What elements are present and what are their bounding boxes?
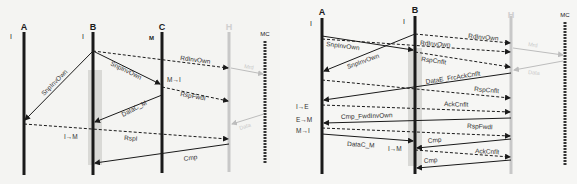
transition-a-e-to-m: E→M — [296, 116, 312, 123]
transition-b-i-to-m: I→M — [388, 145, 402, 152]
actor-h-label: H — [508, 10, 515, 20]
msg-ackcnflt-b-label: AckCnflt — [475, 147, 500, 155]
msg-snpinvown-a — [25, 51, 93, 120]
left-diagram-canvas: A B C H MC I I M RdInvOwn SnpInvOwn SnpI… — [0, 0, 280, 184]
actor-b-state: I — [403, 18, 405, 25]
msg-snpinvown-ba — [324, 34, 415, 71]
transition-c-m-to-i: M→I — [167, 76, 181, 83]
actor-c-state: M — [149, 35, 154, 41]
b-active-region — [88, 70, 102, 165]
msg-ackcnflt-a-label: AckCnflt — [444, 100, 469, 108]
transition-a-i-to-e: I→E — [296, 103, 309, 110]
msg-cmp-fwdinvown-label: Cmp_FwdInvOwn — [341, 111, 393, 121]
actor-mc-label: MC — [260, 31, 270, 37]
right-diagram-canvas: A B H MC I I RdInvOwn SnpInvOwn RdInvOwn… — [280, 0, 577, 184]
msg-cmp-label: Cmp — [183, 153, 198, 163]
msg-rspcnflt-a-label: RspCnflt — [474, 85, 500, 95]
actor-a-state: I — [310, 20, 312, 27]
msg-mrd-label: Mrd — [528, 41, 538, 48]
right-sequence-diagram: A B H MC I I RdInvOwn SnpInvOwn RdInvOwn… — [280, 0, 577, 184]
msg-rdinvown-a-label: RdInvOwn — [420, 39, 451, 48]
msg-mrd — [513, 48, 563, 55]
actor-b-label: B — [412, 5, 419, 15]
msg-snpinvown-ab-label: SnpInvOwn — [326, 40, 361, 52]
actor-h-label: H — [226, 22, 233, 32]
msg-rspcnflt-b-label: RspCnflt — [421, 55, 447, 66]
msg-rspfwdi-label: RspFwdI — [467, 122, 493, 131]
msg-data-label: Data — [238, 121, 252, 131]
actor-a-state: I — [10, 33, 12, 40]
msg-datac-m — [322, 134, 413, 141]
actor-b-state: I — [82, 33, 84, 40]
msg-data — [514, 61, 563, 70]
left-sequence-diagram: A B C H MC I I M RdInvOwn SnpInvOwn SnpI… — [0, 0, 280, 184]
transition-a-m-to-i: M→I — [296, 127, 310, 134]
msg-cmp-1-label: Cmp — [427, 136, 442, 145]
actor-b-label: B — [90, 22, 97, 32]
actor-a-label: A — [21, 22, 28, 32]
msg-datae-frcackcnflt-label: DataE_FrcAckCnflt — [425, 69, 481, 86]
msg-rspi-label: RspI — [124, 134, 138, 143]
transition-b-i-to-m: I→M — [64, 133, 78, 140]
msg-snpinvown-a-label: SnpInvOwn — [40, 68, 70, 98]
msg-data-label: Data — [528, 69, 541, 76]
msg-datac-m-label: DataC_M — [347, 140, 375, 149]
msg-snpinvown-c-label: SnpInvOwn — [109, 60, 143, 82]
actor-mc-label: MC — [560, 12, 570, 18]
msg-cmp-2-label: Cmp — [424, 156, 439, 165]
actor-c-label: C — [159, 22, 166, 32]
msg-rdinvown-label: RdInvOwn — [180, 54, 211, 65]
msg-mrd-label: Mrd — [244, 63, 254, 71]
actor-a-label: A — [319, 7, 326, 17]
msg-rdinvown-b-label: RdInvOwn — [468, 32, 499, 42]
msg-rspfwdi-label: RspFwdI — [180, 90, 207, 102]
msg-datac-m-label: DataC_M — [120, 99, 148, 119]
